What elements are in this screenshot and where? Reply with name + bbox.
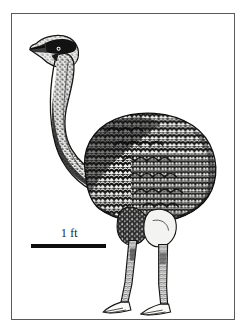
scale-bar-label: 1 ft: [61, 227, 78, 240]
bird-feet: [103, 302, 170, 315]
figure-root: 1 ft: [0, 0, 248, 333]
bird-legs: [121, 241, 168, 305]
scale-bar-line: [31, 244, 106, 248]
bird-illustration: [12, 14, 234, 319]
figure-frame-border: 1 ft: [11, 13, 235, 320]
scale-bar: 1 ft: [31, 227, 126, 263]
